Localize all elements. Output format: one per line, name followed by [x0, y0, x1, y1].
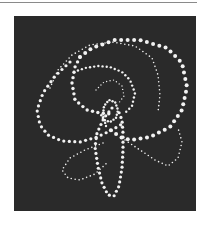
curve-dot [65, 164, 67, 166]
curve-dot [159, 89, 161, 91]
curve-dot [185, 83, 189, 87]
curve-dot [104, 122, 106, 124]
curve-dot [158, 105, 160, 107]
curve-dot [114, 68, 116, 70]
curve-dot [131, 105, 133, 107]
curve-dot [122, 89, 123, 90]
curve-dot [97, 65, 99, 67]
curve-dot [107, 110, 110, 113]
curve-dot [144, 153, 146, 155]
curve-dot [60, 68, 63, 71]
curve-dot [105, 125, 107, 127]
curve-dot [179, 133, 181, 135]
curve-dot [121, 71, 123, 73]
curve-dot [157, 77, 159, 79]
curve-dot [96, 111, 99, 114]
curve-dot [102, 142, 104, 144]
curve-dot [128, 141, 130, 143]
curve-dot [116, 107, 118, 109]
curve-dot [77, 153, 79, 155]
curve-dot [37, 115, 40, 118]
curve-dot [108, 99, 110, 101]
curve-dot [71, 54, 73, 56]
curve-dot [57, 138, 60, 141]
curve-dot [82, 178, 84, 180]
curve-dot [91, 147, 93, 149]
curve-dot [116, 110, 118, 112]
curve-dot [106, 81, 107, 82]
curve-dot [136, 46, 138, 48]
curve-dot [141, 150, 143, 152]
curve-dot [151, 42, 155, 46]
curve-dot [128, 108, 130, 110]
curve-dot [181, 102, 185, 106]
curve-dot [157, 73, 159, 75]
curve-dot [76, 60, 79, 63]
curve-dot [52, 136, 55, 139]
curve-dot [51, 84, 53, 86]
curve-dot [182, 71, 186, 75]
curve-dot [154, 159, 156, 161]
curve-dot [121, 161, 124, 164]
curve-dot [99, 168, 101, 170]
curve-dot [103, 82, 104, 83]
curve-dot [181, 64, 185, 68]
curve-dot [40, 125, 43, 128]
curve-dot [74, 178, 76, 180]
curve-dot [101, 65, 103, 67]
curve-dot [164, 46, 168, 50]
curve-dot [128, 44, 130, 46]
curve-dot [100, 84, 101, 85]
curve-dot [168, 125, 172, 129]
curve-dot [180, 109, 184, 113]
curve-dot [62, 170, 64, 172]
curve-dot [43, 89, 46, 92]
curve-dot [89, 66, 91, 68]
curve-dot [172, 119, 176, 123]
curve-dot [153, 62, 155, 64]
curve-dot [95, 132, 98, 135]
curve-dot [124, 74, 126, 76]
curve-dot [52, 80, 54, 82]
curve-dot [43, 130, 46, 133]
curve-dot [132, 100, 134, 102]
curve-dot [78, 55, 81, 58]
curve-dot [155, 69, 157, 71]
curve-dot [85, 47, 87, 49]
curve-dot [180, 137, 182, 139]
curve-dot [126, 38, 130, 42]
curve-dot [102, 109, 104, 111]
curve-dot [159, 97, 161, 99]
curve-dot [79, 140, 82, 143]
curve-dot [109, 80, 110, 81]
curve-dot [131, 84, 133, 86]
curve-dot [105, 131, 108, 134]
curve-dot [98, 87, 99, 88]
curve-dot [161, 163, 163, 165]
curve-dot [96, 43, 98, 45]
curve-dot [115, 190, 118, 193]
curve-dot [118, 83, 119, 84]
curve-dot [92, 44, 94, 46]
curve-dot [102, 112, 104, 114]
curve-dot [80, 151, 82, 153]
curve-dot [157, 131, 161, 135]
curve-dot [119, 101, 120, 102]
curve-dot [64, 64, 67, 67]
curve-dot [183, 77, 187, 81]
curve-dot [116, 114, 118, 116]
curve-dot [85, 67, 87, 69]
curve-dot [158, 161, 160, 163]
curve-dot [149, 55, 151, 57]
curve-dot [157, 109, 159, 111]
curve-dot [94, 45, 98, 49]
curve-dot [95, 157, 98, 160]
curve-dot [104, 103, 106, 105]
curve-dot [110, 66, 112, 68]
curve-dot [104, 42, 106, 44]
curve-dot [180, 145, 182, 147]
curve-dot [91, 110, 94, 113]
curve-dot [36, 110, 39, 113]
faint-lower-left-loop [62, 142, 107, 180]
curve-dot [93, 65, 95, 67]
